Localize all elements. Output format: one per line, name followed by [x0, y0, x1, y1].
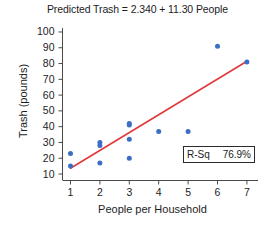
data-point [97, 143, 102, 148]
data-point [215, 44, 220, 49]
y-tick-label: 10 [29, 169, 55, 180]
y-tick-label: 100 [29, 26, 55, 37]
y-tick-label: 80 [29, 58, 55, 69]
y-tick-label: 60 [29, 90, 55, 101]
y-tick-label: 30 [29, 137, 55, 148]
x-tick-label: 1 [62, 187, 80, 198]
x-tick-label: 3 [120, 187, 138, 198]
data-point [127, 137, 132, 142]
y-tick-label: 40 [29, 121, 55, 132]
data-point [186, 129, 191, 134]
data-point [97, 160, 102, 165]
rsq-label: R-Sq [187, 149, 210, 160]
x-tick-label: 5 [179, 187, 197, 198]
data-point [244, 59, 249, 64]
y-tick-label: 20 [29, 153, 55, 164]
data-point [127, 123, 132, 128]
x-tick-label: 7 [238, 187, 256, 198]
y-tick-label: 50 [29, 105, 55, 116]
scatter-plot-figure: Predicted Trash = 2.340 + 11.30 People T… [0, 0, 275, 228]
y-tick-label: 90 [29, 42, 55, 53]
data-point [127, 156, 132, 161]
y-tick-label: 70 [29, 74, 55, 85]
x-tick-label: 4 [150, 187, 168, 198]
data-point [68, 164, 73, 169]
rsq-legend-box: R-Sq 76.9% [183, 146, 255, 163]
data-point [156, 129, 161, 134]
x-tick-label: 2 [91, 187, 109, 198]
x-axis-tick-marks [71, 181, 247, 185]
data-point [68, 151, 73, 156]
y-axis-tick-marks [59, 32, 63, 174]
x-tick-label: 6 [209, 187, 227, 198]
rsq-value: 76.9% [223, 149, 251, 160]
